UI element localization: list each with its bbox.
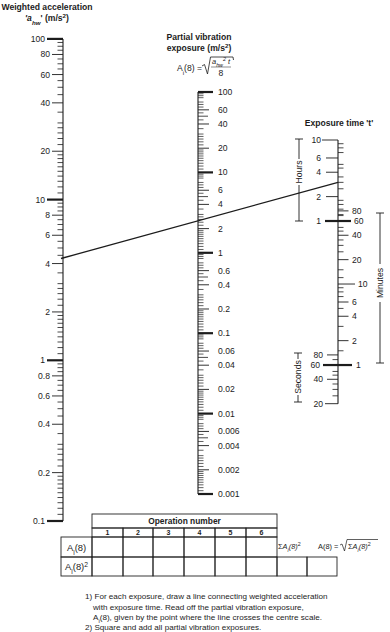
minute-tick-label: 40 — [352, 230, 362, 240]
center-scale-title: Partial vibration — [167, 32, 232, 42]
minute-tick-label: 20 — [352, 255, 362, 265]
left-tick-label: 1 — [40, 355, 45, 365]
value-cell — [184, 557, 215, 576]
left-tick-label: 60 — [40, 70, 50, 80]
hour-tick-label: 4 — [316, 167, 321, 177]
minute-tick-label: 6 — [352, 297, 357, 307]
formula-numerator: ahw2 t — [212, 56, 231, 68]
minute-tick-label: 1 — [356, 360, 361, 370]
sum-label: ΣAi(8)2 — [278, 541, 301, 553]
sum-cell — [277, 557, 307, 576]
operations-table: Operation number123456Ai(8)Ai(8)2ΣAi(8)2… — [61, 514, 378, 576]
operation-number: 4 — [198, 529, 202, 536]
hour-tick-label: 1 — [316, 216, 321, 226]
instruction-line: 2) Square and add all partial vibration … — [85, 623, 261, 632]
center-tick-label: 0.006 — [218, 426, 240, 436]
center-tick-label: 60 — [218, 105, 228, 115]
formula-lhs: Ai(8) = — [177, 63, 202, 76]
left-tick-label: 10 — [35, 195, 45, 205]
value-cell — [123, 557, 153, 576]
center-tick-label: 0.001 — [218, 489, 240, 499]
unit-brackets: HoursMinutesSeconds — [293, 139, 385, 402]
left-scale-subtitle: 'ahw' (m/s2) — [25, 12, 69, 26]
center-tick-label: 20 — [218, 143, 228, 153]
center-tick-label: 0.002 — [218, 465, 240, 475]
right-scale-title: Exposure time 't' — [305, 118, 374, 128]
center-tick-label: 1 — [218, 248, 223, 258]
operation-number: 6 — [260, 529, 264, 536]
left-tick-label: 20 — [40, 146, 50, 156]
instructions: 1) For each exposure, draw a line connec… — [85, 592, 328, 632]
center-tick-label: 0.04 — [218, 360, 235, 370]
minute-tick-label: 80 — [352, 206, 362, 216]
left-tick-label: 0.6 — [38, 391, 50, 401]
left-tick-label: 80 — [40, 49, 50, 59]
hour-tick-label: 2 — [316, 192, 321, 202]
minute-tick-label: 60 — [354, 216, 364, 226]
value-cell — [153, 557, 184, 576]
example-line — [61, 182, 338, 258]
second-tick-label: 80 — [313, 350, 323, 360]
center-scale-subtitle: exposure (m/s2) — [167, 42, 232, 54]
center-tick-label: 0.01 — [218, 409, 235, 419]
total-radicand: ΣAi(8)2 — [348, 541, 371, 553]
center-tick-label: 0.06 — [218, 346, 235, 356]
operation-header-label: Operation number — [148, 516, 221, 526]
hours-bracket-label: Hours — [294, 161, 304, 184]
value-cell — [153, 537, 184, 557]
second-tick-label: 60 — [310, 360, 320, 370]
left-tick-label: 100 — [31, 34, 46, 44]
value-cell — [123, 537, 153, 557]
center-tick-label: 0.6 — [218, 266, 230, 276]
value-cell — [215, 557, 246, 576]
value-cell — [246, 557, 277, 576]
row-label: Ai(8)2 — [65, 561, 88, 575]
formula-denominator: 8 — [219, 68, 224, 78]
operation-number: 5 — [229, 529, 233, 536]
operation-number: 1 — [106, 529, 110, 536]
value-cell — [246, 537, 277, 557]
center-tick-label: 0.02 — [218, 384, 235, 394]
hour-tick-label: 10 — [311, 135, 321, 145]
center-tick-label: 100 — [218, 87, 233, 97]
left-scale: 1008060402010864210.80.60.40.20.1 — [31, 34, 63, 526]
operation-number: 3 — [167, 529, 171, 536]
titles: Weighted acceleration 'ahw' (m/s2) Parti… — [1, 2, 373, 128]
example-connecting-line — [61, 182, 338, 258]
center-tick-label: 4 — [218, 199, 223, 209]
center-tick-label: 40 — [218, 119, 228, 129]
value-cell — [92, 557, 123, 576]
left-tick-label: 4 — [45, 259, 50, 269]
formula: Ai(8) =ahw2 t8 — [177, 56, 234, 78]
left-tick-label: 0.4 — [38, 419, 50, 429]
left-tick-label: 0.1 — [33, 516, 45, 526]
center-tick-label: 0.4 — [218, 280, 230, 290]
left-tick-label: 0.8 — [38, 371, 50, 381]
value-cell — [92, 537, 123, 557]
minute-tick-label: 10 — [358, 279, 368, 289]
value-cell — [215, 537, 246, 557]
row-label: Ai(8) — [67, 542, 86, 556]
center-tick-label: 0.2 — [218, 304, 230, 314]
center-scale: 1006040201064210.60.40.20.10.060.040.020… — [198, 87, 240, 499]
left-tick-label: 0.2 — [38, 468, 50, 478]
center-tick-label: 0.1 — [218, 328, 230, 338]
hour-tick-label: 6 — [316, 153, 321, 163]
operation-number: 2 — [136, 529, 140, 536]
minutes-bracket-label: Minutes — [375, 268, 385, 298]
value-cell — [184, 537, 215, 557]
minute-tick-label: 2 — [352, 336, 357, 346]
instruction-line: with exposure time. Read off the partial… — [92, 603, 304, 612]
total-cell — [307, 557, 337, 576]
total-label: A(8) = — [318, 542, 338, 551]
left-tick-label: 6 — [45, 230, 50, 240]
second-tick-label: 40 — [313, 374, 323, 384]
center-tick-label: 0.004 — [218, 441, 240, 451]
left-tick-label: 40 — [40, 98, 50, 108]
center-tick-label: 10 — [218, 167, 228, 177]
left-scale-title: Weighted acceleration — [1, 2, 92, 12]
left-tick-label: 2 — [45, 307, 50, 317]
second-tick-label: 20 — [313, 399, 323, 409]
minute-tick-label: 4 — [352, 311, 357, 321]
instruction-line: 1) For each exposure, draw a line connec… — [85, 592, 328, 601]
